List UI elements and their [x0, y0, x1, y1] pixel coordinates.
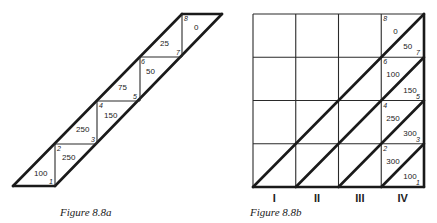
value-label: 50	[146, 67, 155, 76]
value-label: 250	[386, 114, 400, 123]
node-label: 1	[416, 179, 420, 186]
node-label: 3	[91, 136, 95, 143]
value-label: 300	[403, 129, 417, 138]
node-label: 6	[141, 58, 145, 65]
column-label: IV	[397, 192, 408, 204]
value-label: 50	[403, 42, 412, 51]
node-label: 1	[49, 178, 53, 185]
node-label: 4	[99, 102, 103, 109]
value-label: 300	[386, 157, 400, 166]
column-label: III	[355, 192, 364, 204]
node-label: 2	[56, 145, 61, 152]
node-label: 8	[184, 15, 188, 22]
value-label: 250	[62, 153, 76, 162]
value-label: 150	[104, 111, 118, 120]
value-label: 100	[386, 70, 400, 79]
node-label: 5	[133, 93, 137, 100]
value-label: 25	[160, 39, 169, 48]
value-label: 75	[118, 83, 127, 92]
figure-b-caption: Figure 8.8b	[249, 206, 302, 218]
node-label: 7	[416, 49, 421, 56]
node-label: 3	[416, 136, 420, 143]
value-label: 100	[403, 172, 417, 181]
value-label: 100	[34, 169, 48, 178]
lower-chord	[55, 14, 222, 186]
node-label: 2	[382, 145, 387, 152]
value-label: 0	[393, 27, 398, 36]
value-label: 0	[194, 23, 199, 32]
figure-8-8a: 123456781002502501507550250	[13, 14, 222, 186]
node-label: 4	[383, 102, 387, 109]
figure-8-8b: 12345678100300300250150100500IIIIIIIV	[253, 14, 424, 204]
column-label: I	[273, 192, 276, 204]
value-label: 150	[403, 86, 417, 95]
column-label: II	[314, 192, 320, 204]
figures-canvas: 123456781002502501507550250 123456781003…	[0, 0, 437, 223]
value-label: 250	[76, 125, 90, 134]
upper-chord	[13, 14, 182, 186]
node-label: 5	[416, 93, 420, 100]
diagonal-member	[296, 57, 424, 187]
node-label: 7	[176, 49, 181, 56]
figure-a-caption: Figure 8.8a	[59, 206, 112, 218]
node-label: 8	[383, 15, 387, 22]
node-label: 6	[383, 58, 387, 65]
